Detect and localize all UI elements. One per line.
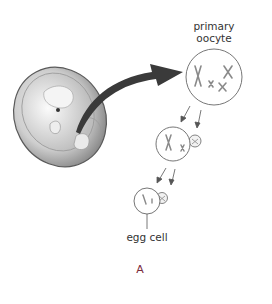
egg-cell-label: egg cell (117, 231, 177, 243)
primary-oocyte-label: primary oocyte (184, 20, 244, 44)
primary-oocyte-label-line1: primary (184, 20, 244, 32)
primary-oocyte-label-line2: oocyte (184, 32, 244, 44)
secondary-oocyte-cell (156, 127, 201, 161)
division-arrows-1 (181, 106, 201, 128)
embryo-illustration (0, 51, 124, 183)
primary-oocyte-cell (186, 49, 242, 105)
oogenesis-diagram (0, 0, 272, 304)
division-arrows-2 (157, 168, 175, 185)
panel-letter: A (130, 263, 150, 276)
egg-cell (134, 188, 168, 229)
